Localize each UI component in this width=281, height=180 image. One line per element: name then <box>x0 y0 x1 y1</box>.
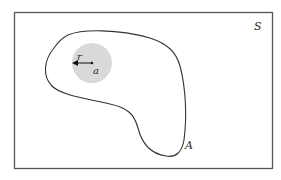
label-region-a: A <box>184 139 193 152</box>
label-a: a <box>93 65 99 76</box>
label-s: S <box>254 20 262 33</box>
set-diagram: r a S A <box>0 0 281 180</box>
center-point-a <box>91 62 93 64</box>
